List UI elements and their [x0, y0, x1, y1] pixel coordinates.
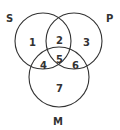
- region-2: 2: [56, 35, 63, 46]
- region-7: 7: [56, 83, 63, 94]
- set-label-s: S: [6, 13, 13, 24]
- region-5: 5: [56, 54, 63, 65]
- region-3: 3: [83, 37, 90, 48]
- region-1: 1: [29, 37, 36, 48]
- region-6: 6: [72, 60, 79, 71]
- set-label-m: M: [53, 116, 63, 127]
- venn-diagram: S P M 1 2 3 4 5 6 7: [0, 0, 120, 130]
- set-label-p: P: [106, 13, 113, 24]
- region-4: 4: [40, 60, 47, 71]
